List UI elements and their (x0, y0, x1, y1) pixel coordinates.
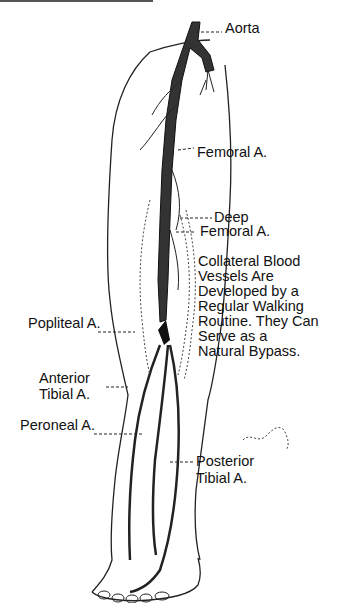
collateral-line: Natural Bypass. (198, 344, 319, 359)
lower-leg-arteries (129, 345, 178, 592)
label-femoral-artery: Femoral A. (197, 145, 267, 160)
label-anterior-tibial-line2: Tibial A. (39, 387, 90, 402)
label-aorta: Aorta (225, 21, 260, 36)
label-posterior-tibial-line1: Posterior (196, 454, 254, 469)
collateral-line: Developed by a (198, 284, 319, 299)
collateral-line: Routine. They Can (198, 314, 319, 329)
collateral-line: Collateral Blood (198, 254, 319, 269)
collateral-line: Serve as a (198, 329, 319, 344)
label-popliteal-artery: Popliteal A. (28, 316, 101, 331)
label-collateral-vessels: Collateral Blood Vessels Are Developed b… (198, 254, 319, 359)
label-deep-femoral-line2: Femoral A. (200, 224, 270, 239)
label-posterior-tibial-line2: Tibial A. (196, 471, 247, 486)
label-anterior-tibial-line1: Anterior (39, 371, 90, 386)
label-peroneal-artery: Peroneal A. (20, 418, 95, 433)
collateral-line: Vessels Are (198, 269, 319, 284)
leader-lines (94, 32, 222, 462)
collateral-line: Regular Walking (198, 299, 319, 314)
